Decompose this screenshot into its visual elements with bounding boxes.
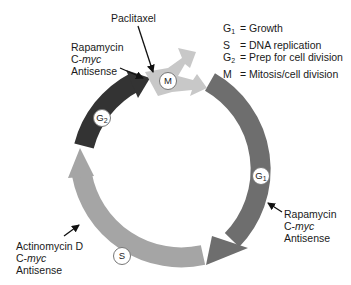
rapamycin-top-line1: Rapamycin [71, 41, 124, 53]
actinomycin-line3: Antisense [16, 264, 83, 276]
legend-sub: 1 [231, 28, 235, 35]
phase-m-label: M [164, 75, 172, 86]
myc-italic: myc [82, 53, 101, 65]
myc-italic: myc [295, 220, 314, 232]
paclitaxel-text: Paclitaxel [111, 12, 156, 24]
phase-s-label: S [119, 250, 125, 261]
legend-key: S [223, 39, 230, 51]
legend-text: = Mitosis/cell division [240, 68, 338, 80]
legend-row-s: S = DNA replication [223, 39, 343, 52]
g2-phase-arrow [84, 70, 150, 146]
c-prefix: C- [16, 252, 27, 264]
paclitaxel-label: Paclitaxel [111, 12, 156, 24]
phase-g1-sub: 1 [263, 175, 267, 182]
c-prefix: C- [284, 220, 295, 232]
actinomycin-line2: C-myc [16, 252, 83, 264]
phase-badge-m: M [159, 72, 177, 90]
rapamycin-top-line3: Antisense [71, 65, 124, 77]
c-prefix: C- [71, 53, 82, 65]
legend-text: = Prep for cell division [240, 51, 343, 63]
legend-row-g2: G2 = Prep for cell division [223, 51, 343, 68]
legend-key: G [223, 51, 231, 63]
legend-text: = Growth [240, 22, 283, 34]
rapamycin-right-line1: Rapamycin [284, 208, 337, 220]
legend-sub: 2 [231, 57, 235, 64]
s-phase-arrow [68, 148, 203, 257]
actinomycin-line1: Actinomycin D [16, 240, 83, 252]
legend-row-m: M = Mitosis/cell division [223, 68, 343, 81]
m-phase-shape [145, 48, 207, 96]
rapamycin-top-line2: C-myc [71, 53, 124, 65]
legend-row-g1: G1 = Growth [223, 22, 343, 39]
legend-text: = DNA replication [240, 39, 321, 51]
legend-key: G [223, 22, 231, 34]
legend-key: M [223, 68, 232, 80]
paclitaxel-pointer [138, 26, 153, 72]
rapamycin-right-line3: Antisense [284, 232, 337, 244]
phase-g2-label: G [96, 112, 103, 123]
rapamycin-top-label: Rapamycin C-myc Antisense [71, 41, 124, 77]
myc-italic: myc [27, 252, 46, 264]
phase-badge-g1: G1 [252, 167, 270, 185]
actinomycin-pointer [64, 225, 79, 236]
phase-g1-label: G [255, 170, 262, 181]
rapamycin-right-label: Rapamycin C-myc Antisense [284, 208, 337, 244]
phase-badge-s: S [113, 247, 131, 265]
phase-legend: G1 = Growth S = DNA replication G2 = Pre… [223, 22, 343, 80]
rapamycin-right-line2: C-myc [284, 220, 337, 232]
phase-g2-sub: 2 [104, 117, 108, 124]
phase-badge-g2: G2 [93, 109, 111, 127]
actinomycin-label: Actinomycin D C-myc Antisense [16, 240, 83, 276]
rapamycin-right-pointer [268, 203, 282, 212]
